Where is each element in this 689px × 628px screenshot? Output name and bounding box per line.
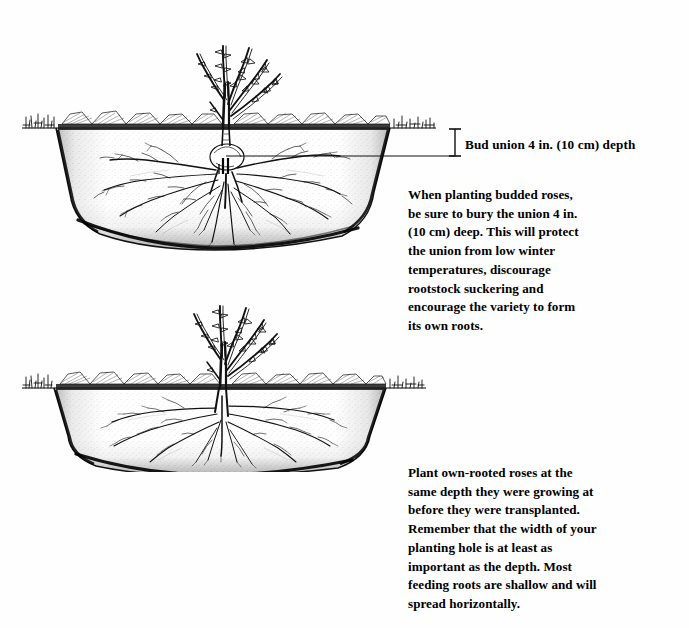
- own-rooted-rose-caption: Plant own-rooted roses at the same depth…: [408, 464, 664, 614]
- illustration-page: Bud union 4 in. (10 cm) depth When plant…: [0, 0, 689, 628]
- caption-line: Remember that the width of your: [408, 520, 664, 539]
- budded-rose-drawing: [22, 46, 436, 254]
- bud-union-depth-label: Bud union 4 in. (10 cm) depth: [465, 138, 635, 151]
- caption-line: the union from low winter: [408, 242, 660, 261]
- caption-line: same depth they were growing at: [408, 483, 664, 502]
- caption-line: Plant own-rooted roses at the: [408, 464, 664, 483]
- caption-line: planting hole is at least as: [408, 539, 664, 558]
- soil-clods: [62, 111, 390, 124]
- caption-line: be sure to bury the union 4 in.: [408, 205, 660, 224]
- budded-rose-figure: [18, 24, 438, 256]
- caption-line: When planting budded roses,: [408, 186, 660, 205]
- soil-clods: [60, 372, 386, 384]
- bud-union-depth-bracket: [449, 129, 461, 156]
- caption-line: temperatures, discourage: [408, 261, 660, 280]
- caption-line: (10 cm) deep. This will protect: [408, 223, 660, 242]
- budded-rose-caption: When planting budded roses, be sure to b…: [408, 186, 660, 336]
- caption-line: important as the depth. Most: [408, 558, 664, 577]
- caption-line: rootstock suckering and: [408, 280, 660, 299]
- own-rooted-rose-figure: [18, 296, 430, 472]
- caption-line: spread horizontally.: [408, 595, 664, 614]
- caption-line: before they were transplanted.: [408, 501, 664, 520]
- caption-line: encourage the variety to form: [408, 298, 660, 317]
- caption-line: its own roots.: [408, 317, 660, 336]
- own-rooted-rose-drawing: [22, 306, 426, 472]
- caption-line: feeding roots are shallow and will: [408, 576, 664, 595]
